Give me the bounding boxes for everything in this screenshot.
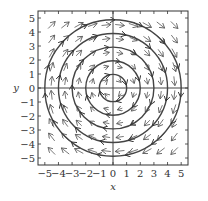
vector-arrow	[75, 134, 82, 139]
vector-arrow	[115, 24, 124, 25]
vector-arrow	[118, 94, 121, 97]
vector-arrow	[115, 150, 124, 151]
vector-arrow	[171, 21, 178, 28]
vector-arrow	[171, 35, 177, 43]
vector-arrow	[104, 66, 109, 68]
y-tick-label: −2	[20, 111, 35, 122]
vector-arrow	[61, 148, 69, 154]
x-tick-label: −5	[37, 168, 52, 179]
flow-direction-arrow	[151, 73, 152, 77]
x-tick-label: 3	[151, 168, 157, 179]
y-axis-label: y	[12, 82, 19, 93]
vector-arrow	[63, 49, 68, 56]
vector-arrow	[105, 80, 108, 83]
flow-direction-arrow	[116, 100, 120, 101]
vector-arrow	[63, 119, 68, 126]
vector-arrow	[75, 36, 82, 41]
flow-direction-arrow	[87, 95, 88, 99]
vector-arrow	[174, 90, 175, 99]
flow-direction-arrow	[177, 65, 178, 69]
x-tick-label: 1	[123, 168, 129, 179]
vector-arrow	[117, 122, 123, 123]
y-tick-label: −4	[20, 139, 35, 150]
vector-arrow	[118, 80, 121, 83]
vector-arrow	[144, 50, 150, 56]
y-tick-label: 4	[29, 27, 35, 38]
vector-arrow	[65, 77, 66, 85]
y-tick-label: −3	[20, 125, 35, 136]
vector-arrow	[48, 147, 55, 154]
vector-arrow	[174, 76, 175, 85]
x-tick-label: 2	[137, 168, 143, 179]
y-tick-label: 3	[29, 41, 35, 52]
vector-arrow	[78, 78, 79, 84]
vector-arrow	[51, 76, 52, 85]
vector-arrow	[173, 104, 176, 113]
flow-direction-arrow	[128, 139, 132, 140]
vector-arrow	[103, 52, 109, 53]
vector-arrow	[92, 93, 94, 98]
flow-direction-arrow	[94, 36, 98, 37]
x-tick-label: −2	[78, 168, 93, 179]
vector-arrow	[158, 49, 163, 56]
flow-direction-arrow	[164, 69, 165, 73]
vector-arrow	[50, 104, 53, 113]
vector-arrow	[104, 108, 109, 110]
vector-arrow	[117, 108, 122, 110]
y-tick-label: 5	[29, 13, 35, 24]
vector-arrow	[105, 94, 108, 97]
vector-arrow	[133, 93, 135, 98]
x-tick-label: 4	[164, 168, 170, 179]
y-tick-label: 1	[29, 69, 35, 80]
vector-arrow	[116, 38, 124, 39]
vector-arrow	[102, 24, 111, 25]
vector-arrow	[144, 120, 150, 126]
axes	[38, 11, 188, 165]
vector-arrow	[48, 21, 55, 28]
vector-arrow	[102, 136, 110, 137]
vector-arrow	[158, 119, 163, 126]
y-tick-label: 2	[29, 55, 35, 66]
vector-arrow	[171, 133, 177, 141]
flow-direction-arrow	[100, 91, 101, 95]
vector-arrow	[143, 134, 150, 139]
vector-arrow	[78, 92, 79, 98]
vector-arrow	[76, 120, 82, 126]
vector-arrow	[76, 50, 82, 56]
vector-arrow	[171, 147, 178, 154]
vector-arrow	[49, 133, 55, 141]
vector-arrow	[102, 150, 111, 151]
flow-direction-arrow	[47, 65, 48, 69]
flow-direction-arrow	[138, 77, 139, 81]
y-tick-label: 0	[29, 83, 35, 94]
vector-arrow	[92, 79, 94, 84]
vector-arrow	[160, 91, 161, 99]
vector-arrow	[160, 77, 161, 85]
vector-arrow	[65, 91, 66, 99]
vector-arrow	[116, 136, 124, 137]
x-tick-label: −1	[92, 168, 107, 179]
vector-arrow	[173, 62, 176, 71]
flow-direction-arrow	[105, 47, 109, 48]
vector-arrow	[133, 79, 135, 84]
vector-arrow	[117, 52, 123, 53]
x-tick-label: 5	[178, 168, 184, 179]
vector-arrow	[49, 35, 55, 43]
vector-arrow	[61, 22, 69, 28]
x-axis-label: x	[110, 181, 116, 192]
flow-direction-arrow	[125, 81, 126, 85]
vector-arrow	[50, 62, 53, 71]
flow-direction-arrow	[61, 103, 62, 107]
vector-arrow	[143, 36, 150, 41]
vector-field-plot: −5−4−3−2−1012345 −5−4−3−2−1012345 x y	[0, 0, 208, 201]
vector-arrow	[103, 122, 109, 123]
vector-arrow	[157, 22, 165, 28]
x-tick-label: −4	[51, 168, 66, 179]
vector-arrow	[157, 148, 165, 154]
y-tick-label: −1	[20, 97, 35, 108]
vector-arrow	[102, 38, 110, 39]
flow-direction-arrow	[106, 75, 110, 76]
vector-arrow	[117, 66, 122, 68]
vector-arrow	[146, 78, 147, 84]
vector-arrow	[146, 92, 147, 98]
